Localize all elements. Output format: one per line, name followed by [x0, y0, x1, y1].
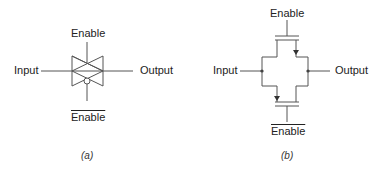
output-label-a: Output [140, 65, 173, 76]
cmos-transmission-gate [240, 20, 330, 122]
enable-label-a: Enable [71, 28, 105, 39]
input-label-a: Input [14, 65, 38, 76]
enable-bar-label-b: Enable [271, 126, 305, 137]
input-label-b: Input [213, 65, 237, 76]
output-label-b: Output [335, 65, 368, 76]
enable-bar-label-a: Enable [71, 112, 105, 123]
transmission-gate-symbol [41, 42, 133, 101]
diagram-canvas [0, 0, 381, 171]
enable-label-b: Enable [270, 8, 304, 19]
caption-a: (a) [81, 151, 93, 161]
caption-b: (b) [281, 151, 293, 161]
